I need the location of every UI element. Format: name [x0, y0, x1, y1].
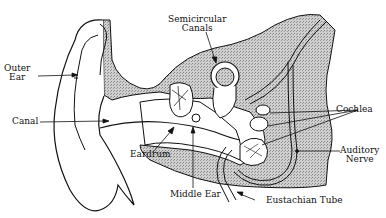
label-semicircular-canals: Semicircular Canals	[168, 15, 227, 33]
ear-anatomy-diagram: Outer Ear Canal Semicircular Canals Coch…	[0, 0, 386, 218]
cochlea-coil-1	[256, 105, 270, 115]
ossicles	[170, 83, 193, 117]
cochlea-base	[240, 138, 268, 165]
label-canal: Canal	[12, 117, 38, 126]
label-auditory-line2: Nerve	[340, 155, 379, 164]
auricle-outline	[54, 20, 134, 211]
label-outer-ear: Outer Ear	[4, 64, 30, 82]
label-eustachian-tube: Eustachian Tube	[266, 196, 343, 205]
label-semicircular-line2: Canals	[168, 24, 227, 33]
label-auditory-nerve: Auditory Nerve	[340, 146, 379, 164]
label-cochlea: Cochlea	[336, 105, 373, 114]
label-eardrum: Eardrum	[130, 150, 171, 159]
label-middle-ear: Middle Ear	[170, 190, 221, 199]
label-outer-ear-line2: Ear	[4, 73, 30, 82]
cochlea-coil-2	[250, 117, 268, 131]
